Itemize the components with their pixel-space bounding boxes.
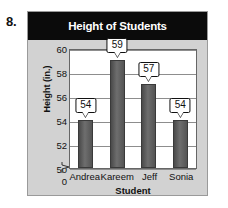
bar-slot: 54 (165, 50, 197, 168)
axis-break-icon (61, 162, 73, 174)
x-axis-title: Student (69, 185, 197, 196)
x-axis-tick: Sonia (165, 171, 197, 182)
y-axis-tick: 60 (56, 45, 67, 54)
x-axis-tick: Andrea (69, 171, 101, 182)
y-axis-tick: 52 (56, 141, 67, 150)
y-axis-tick: 58 (56, 69, 67, 78)
chart-body: Height (in.) 6058565452500 54595754 Andr… (28, 40, 207, 195)
chart-panel: Height of Students Height (in.) 60585654… (27, 11, 208, 196)
gridline (70, 169, 196, 170)
bar-slot: 54 (70, 50, 102, 168)
bar (141, 84, 156, 168)
y-axis-tick: 54 (56, 117, 67, 126)
bar-series: 54595754 (70, 50, 196, 168)
bar-value-label: 54 (170, 98, 191, 113)
bar-slot: 59 (102, 50, 134, 168)
problem-number: 8. (6, 14, 16, 29)
chart-title-bar: Height of Students (28, 12, 207, 40)
bar (110, 60, 125, 168)
page-root: 8. Height of Students Height (in.) 60585… (0, 0, 228, 208)
bar-slot: 57 (133, 50, 165, 168)
bar-value-label: 59 (107, 38, 128, 53)
x-axis-tick: Jeff (134, 171, 166, 182)
plot-area: 54595754 (69, 49, 197, 169)
chart-title: Height of Students (68, 20, 167, 32)
x-axis-tick-labels: AndreaKareemJeffSonia (69, 171, 197, 182)
bar-value-label: 57 (138, 62, 159, 77)
bar-value-label: 54 (75, 98, 96, 113)
bar (78, 120, 93, 168)
y-axis-tick: 56 (56, 93, 67, 102)
y-axis-tick: 0 (62, 177, 67, 186)
x-axis-tick: Kareem (101, 171, 134, 182)
bar (173, 120, 188, 168)
